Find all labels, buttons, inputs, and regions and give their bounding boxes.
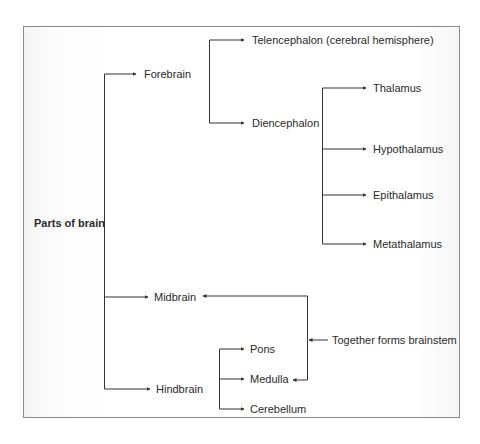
node-midbrain: Midbrain	[154, 291, 196, 303]
node-epithalamus: Epithalamus	[373, 189, 434, 201]
node-diencephalon: Diencephalon	[252, 117, 319, 129]
node-forebrain: Forebrain	[144, 68, 191, 80]
brainstem-annotation: Together forms brainstem	[332, 334, 457, 346]
node-telencephalon: Telencephalon (cerebral hemisphere)	[252, 34, 434, 46]
node-cerebellum: Cerebellum	[250, 403, 306, 415]
node-medulla: Medulla	[250, 373, 289, 385]
node-metathalamus: Metathalamus	[373, 238, 442, 250]
node-hypothalamus: Hypothalamus	[373, 143, 443, 155]
node-thalamus: Thalamus	[373, 82, 421, 94]
node-pons: Pons	[250, 343, 275, 355]
root-label: Parts of brain	[34, 217, 105, 229]
node-hindbrain: Hindbrain	[156, 383, 203, 395]
